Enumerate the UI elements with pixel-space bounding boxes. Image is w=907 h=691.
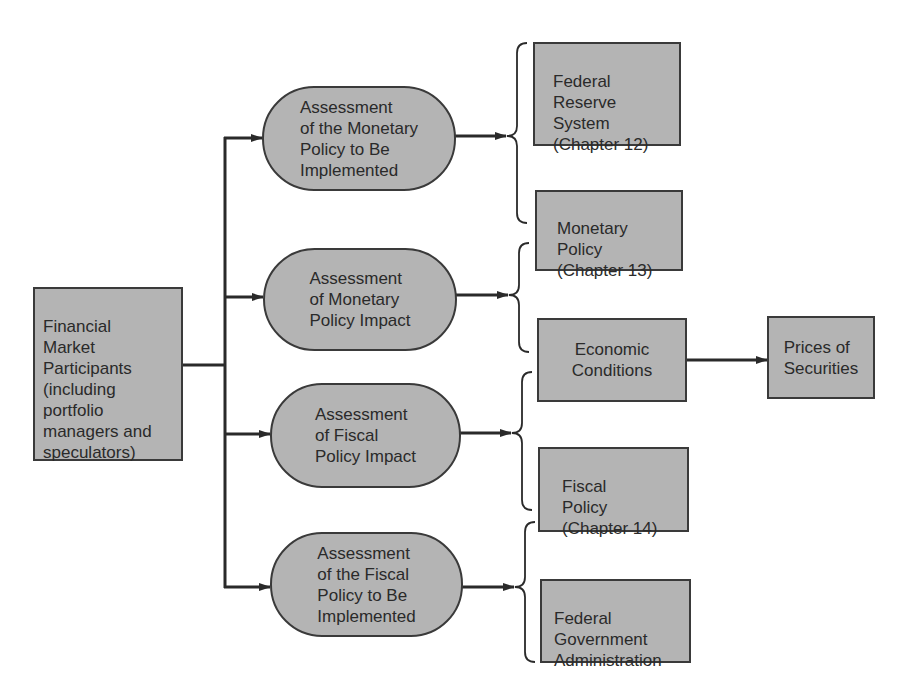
node-assessment-fiscal-policy-impact: Assessment of Fiscal Policy Impact: [270, 383, 461, 488]
node-assessment-monetary-policy-impact: Assessment of Monetary Policy Impact: [263, 248, 457, 351]
node-label: Financial Market Participants (including…: [43, 317, 152, 462]
node-label: Federal Government Administration: [554, 609, 662, 670]
node-assessment-fiscal-policy-to-be-implemented: Assessment of the Fiscal Policy to Be Im…: [270, 532, 463, 637]
node-federal-reserve-system: Federal Reserve System (Chapter 12): [533, 42, 681, 146]
node-financial-market-participants: Financial Market Participants (including…: [33, 287, 183, 461]
node-label: Assessment of Monetary Policy Impact: [309, 268, 410, 331]
node-economic-conditions: Economic Conditions: [537, 318, 687, 402]
node-assessment-monetary-policy-to-be-implemented: Assessment of the Monetary Policy to Be …: [262, 86, 456, 191]
node-label: Monetary Policy (Chapter 13): [557, 219, 652, 280]
node-federal-government-administration: Federal Government Administration: [540, 579, 691, 663]
node-monetary-policy: Monetary Policy (Chapter 13): [535, 190, 683, 271]
node-prices-of-securities: Prices of Securities: [767, 316, 875, 399]
node-label: Economic Conditions: [572, 339, 652, 381]
node-label: Assessment of the Fiscal Policy to Be Im…: [317, 543, 415, 627]
brace-1: [507, 43, 527, 223]
node-label: Prices of Securities: [784, 337, 859, 379]
node-label: Assessment of the Monetary Policy to Be …: [300, 97, 418, 181]
flowchart-diagram: Financial Market Participants (including…: [0, 0, 907, 691]
node-label: Federal Reserve System (Chapter 12): [553, 72, 648, 154]
node-label: Fiscal Policy (Chapter 14): [562, 477, 657, 538]
brace-3: [512, 372, 532, 510]
node-fiscal-policy: Fiscal Policy (Chapter 14): [538, 447, 689, 532]
brace-4: [515, 522, 535, 662]
node-label: Assessment of Fiscal Policy Impact: [315, 404, 416, 467]
brace-2: [509, 243, 529, 352]
